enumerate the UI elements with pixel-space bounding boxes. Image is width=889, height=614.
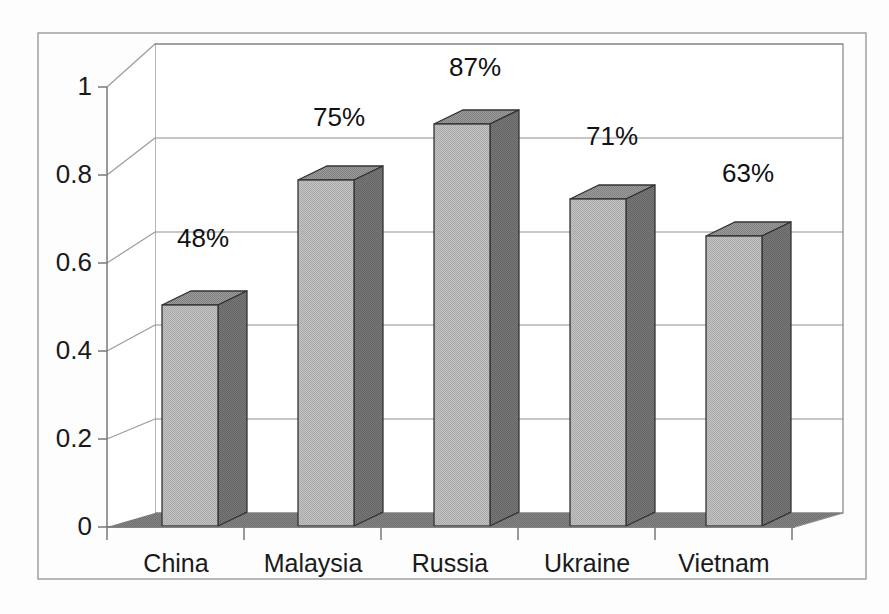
y-tick-label-0-4: 0.4	[56, 335, 92, 365]
bar-china[interactable]	[162, 291, 247, 526]
bar-russia[interactable]	[434, 110, 519, 526]
bar-russia-side	[490, 110, 519, 526]
category-label-china: China	[143, 549, 208, 577]
bar-china-side	[218, 291, 247, 526]
category-labels-group: China Malaysia Russia Ukraine Vietnam	[143, 549, 769, 577]
data-label-china: 48%	[177, 223, 229, 253]
category-label-russia: Russia	[412, 549, 489, 577]
plot-left-wall	[107, 44, 155, 527]
data-label-ukraine: 71%	[586, 121, 638, 151]
category-label-vietnam: Vietnam	[678, 549, 769, 577]
bar-vietnam[interactable]	[706, 222, 791, 526]
bar-malaysia-side	[354, 166, 383, 526]
bar-vietnam-front	[706, 236, 762, 526]
bar-ukraine[interactable]	[570, 185, 655, 526]
bar-ukraine-side	[626, 185, 655, 526]
y-tick-label-0-2: 0.2	[56, 423, 92, 453]
y-tick-label-0-8: 0.8	[56, 159, 92, 189]
y-tick-label-0-6: 0.6	[56, 247, 92, 277]
bar-ukraine-front	[570, 199, 626, 526]
category-label-malaysia: Malaysia	[264, 549, 363, 577]
y-tick-marks	[98, 87, 107, 527]
bar-malaysia-front	[298, 180, 354, 526]
bar-malaysia[interactable]	[298, 166, 383, 526]
x-tick-marks	[107, 527, 792, 540]
data-label-malaysia: 75%	[313, 102, 365, 132]
data-label-vietnam: 63%	[722, 158, 774, 188]
y-tick-label-0-0: 0	[78, 511, 92, 541]
bar-russia-front	[434, 124, 490, 526]
bar-china-front	[162, 305, 218, 526]
bar-vietnam-side	[762, 222, 791, 526]
y-axis-tick-labels: 1 0.8 0.6 0.4 0.2 0	[56, 71, 92, 541]
y-tick-label-1-0: 1	[78, 71, 92, 101]
data-label-russia: 87%	[449, 52, 501, 82]
category-label-ukraine: Ukraine	[544, 549, 630, 577]
bar-chart-3d: 1 0.8 0.6 0.4 0.2 0 China Malaysia Russi…	[0, 0, 889, 614]
chart-container: 1 0.8 0.6 0.4 0.2 0 China Malaysia Russi…	[0, 0, 889, 614]
